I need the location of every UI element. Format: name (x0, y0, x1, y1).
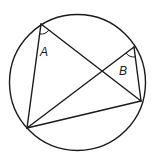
chord-a-to-bottom-left (27, 24, 41, 128)
angle-b-label: B (119, 64, 127, 78)
angle-a-label: A (39, 45, 48, 59)
circle-diagram: A B (0, 0, 154, 160)
angle-b-arc (126, 53, 135, 57)
circumcircle (10, 15, 146, 151)
angle-a-arc (40, 30, 49, 34)
